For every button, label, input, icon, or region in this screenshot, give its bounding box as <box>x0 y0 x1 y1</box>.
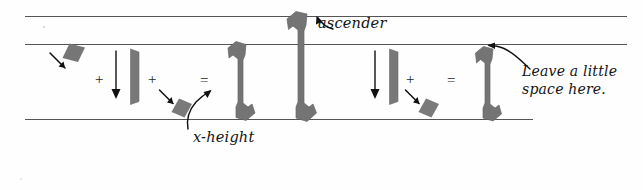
ascender-label: ascender <box>318 15 387 31</box>
x-height-pointer-arrow <box>183 88 217 130</box>
plus-operator-1: + <box>95 72 103 87</box>
plus-operator-2: + <box>148 72 156 87</box>
plus-operator-3: + <box>406 72 414 87</box>
down-arrow-2 <box>369 51 383 101</box>
x-height-label: x-height <box>193 129 254 145</box>
equals-operator-2: = <box>447 73 455 88</box>
down-arrow-1 <box>110 51 124 101</box>
leave-space-label-line1: Leave a little <box>522 64 617 80</box>
equals-operator-1: = <box>200 73 208 88</box>
scan-speck <box>20 178 22 180</box>
x-height-line <box>25 44 627 45</box>
leave-space-label-line2: space here. <box>522 82 606 98</box>
scan-speck <box>43 26 45 28</box>
figure-canvas: + + = x-height ascender <box>0 0 643 190</box>
downstroke-stem-1 <box>126 49 142 105</box>
nib-mark-diamond-1 <box>62 43 86 63</box>
baseline <box>25 119 533 120</box>
letter-l-xheight <box>222 41 256 123</box>
nib-mark-diamond-3 <box>418 98 440 118</box>
downstroke-stem-2 <box>385 49 401 105</box>
